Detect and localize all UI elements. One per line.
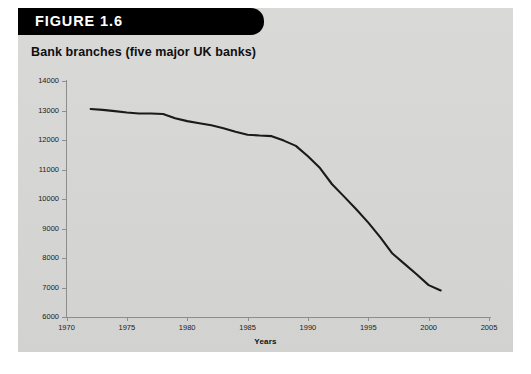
x-axis-title: Years (0, 337, 531, 346)
bank-branches-line (91, 109, 441, 290)
data-line-chart (0, 0, 531, 374)
figure-container: FIGURE 1.6 Bank branches (five major UK … (0, 0, 531, 374)
